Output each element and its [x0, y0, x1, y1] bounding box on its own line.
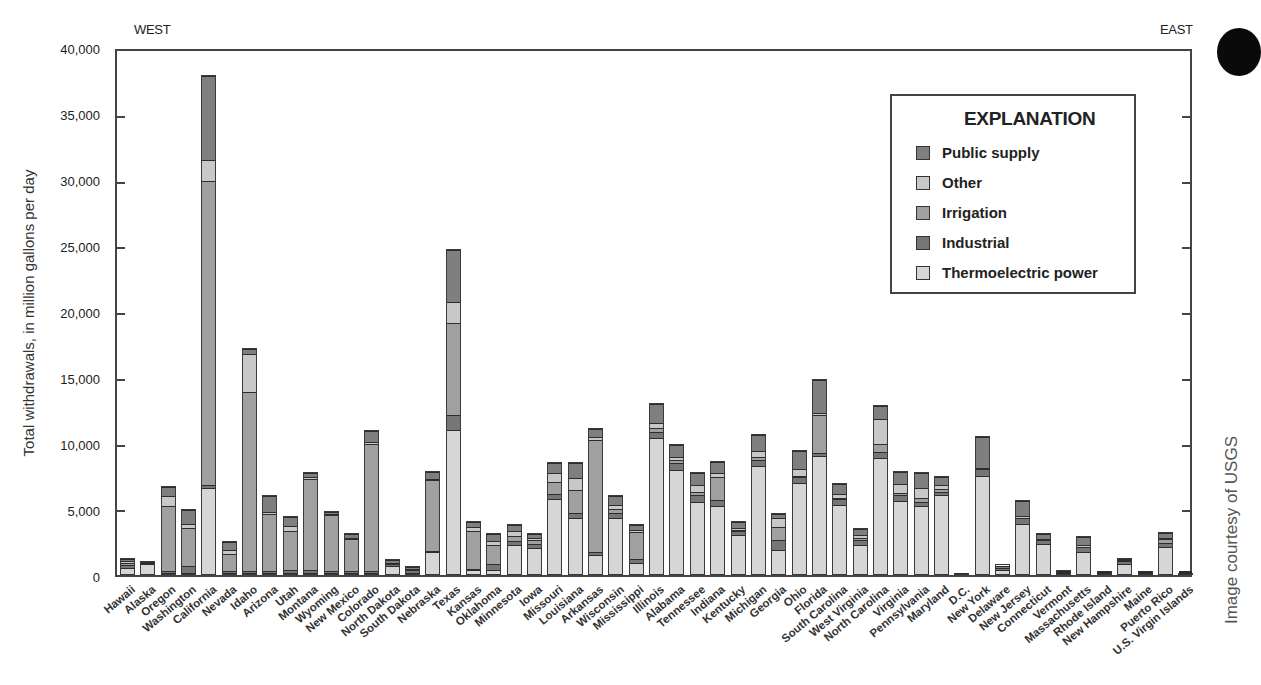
y-tick-mark [117, 313, 125, 315]
bar-segment-irrigation [202, 181, 215, 485]
bar-segment-public-supply [752, 435, 765, 451]
y-tick-label: 10,000 [60, 438, 100, 453]
bar-oregon [161, 486, 176, 575]
bar-segment-irrigation [243, 392, 256, 572]
bar-segment-thermoelectric-power [772, 550, 785, 574]
bar-segment-other [874, 419, 887, 444]
bar-segment-thermoelectric-power [487, 570, 500, 574]
bar-segment-public-supply [223, 542, 236, 551]
bar-segment-irrigation [304, 479, 317, 570]
bar-segment-public-supply [569, 463, 582, 479]
bar-segment-thermoelectric-power [1098, 573, 1111, 574]
bar-utah [283, 516, 298, 575]
bar-new-mexico [344, 533, 359, 575]
bar-segment-thermoelectric-power [467, 570, 480, 574]
bar-idaho [242, 348, 257, 575]
east-label: EAST [1160, 22, 1193, 37]
bar-segment-thermoelectric-power [670, 470, 683, 574]
bar-segment-public-supply [874, 406, 887, 419]
bar-segment-industrial [772, 540, 785, 550]
bar-segment-public-supply [487, 534, 500, 542]
bar-segment-irrigation [447, 323, 460, 414]
bar-segment-public-supply [894, 472, 907, 484]
bar-segment-thermoelectric-power [263, 573, 276, 574]
bar-south-carolina [832, 483, 847, 575]
bar-segment-thermoelectric-power [284, 573, 297, 574]
y-tick-label: 40,000 [60, 42, 100, 57]
bar-u-s-virgin-islands [1178, 573, 1193, 575]
bar-segment-public-supply [793, 451, 806, 469]
bar-segment-thermoelectric-power [223, 573, 236, 574]
bar-new-york [975, 436, 990, 575]
bar-nevada [222, 541, 237, 575]
bar-michigan [751, 434, 766, 575]
bar-segment-public-supply [976, 437, 989, 468]
bar-segment-thermoelectric-power [1057, 573, 1070, 574]
bar-arkansas [588, 428, 603, 575]
image-credit: Image courtesy of USGS [1222, 436, 1242, 624]
bar-mississippi [629, 524, 644, 575]
bar-alabama [669, 444, 684, 576]
bar-segment-thermoelectric-power [996, 570, 1009, 574]
legend-item-irrigation: Irrigation [916, 204, 1007, 221]
bar-segment-other [894, 484, 907, 493]
legend-item-other: Other [916, 174, 982, 191]
bar-north-carolina [873, 405, 888, 575]
bar-alaska [140, 561, 155, 575]
bar-segment-irrigation [813, 415, 826, 453]
legend-swatch [916, 236, 930, 250]
bar-segment-thermoelectric-power [325, 573, 338, 574]
bar-segment-thermoelectric-power [243, 573, 256, 574]
bar-segment-irrigation [772, 527, 785, 540]
y-tick-mark-right [1182, 445, 1190, 447]
bar-segment-thermoelectric-power [345, 573, 358, 574]
bar-maryland [934, 476, 949, 575]
bar-segment-public-supply [935, 477, 948, 485]
bar-wyoming [324, 511, 339, 575]
legend-item-thermoelectric-power: Thermoelectric power [916, 264, 1098, 281]
bar-segment-public-supply [915, 473, 928, 487]
bar-segment-thermoelectric-power [813, 456, 826, 574]
bar-segment-thermoelectric-power [426, 552, 439, 574]
legend: EXPLANATION Public supply Other Irrigati… [890, 94, 1136, 294]
bar-segment-public-supply [691, 473, 704, 485]
bar-segment-irrigation [630, 532, 643, 558]
bar-segment-thermoelectric-power [386, 566, 399, 574]
bar-segment-thermoelectric-power [752, 466, 765, 574]
bar-segment-irrigation [548, 482, 561, 494]
bar-louisiana [568, 462, 583, 575]
bar-missouri [547, 462, 562, 575]
bar-vermont [1056, 570, 1071, 575]
y-tick-mark-right [1182, 510, 1190, 512]
bar-segment-other [569, 478, 582, 490]
y-tick-label: 5,000 [67, 504, 100, 519]
bar-segment-thermoelectric-power [630, 563, 643, 574]
bar-hawaii [120, 558, 135, 575]
bar-tennessee [690, 472, 705, 575]
bar-segment-other [447, 302, 460, 323]
bar-segment-public-supply [182, 510, 195, 524]
bar-pennsylvania [914, 472, 929, 575]
bar-california [201, 75, 216, 575]
bar-segment-thermoelectric-power [793, 483, 806, 574]
bar-puerto-rico [1158, 532, 1173, 575]
bar-segment-industrial [447, 415, 460, 431]
bar-segment-thermoelectric-power [894, 501, 907, 574]
bar-segment-thermoelectric-power [1179, 573, 1192, 574]
bar-segment-thermoelectric-power [447, 430, 460, 574]
bar-segment-other [915, 488, 928, 498]
bar-segment-thermoelectric-power [833, 505, 846, 574]
bar-virginia [893, 471, 908, 575]
bar-massachusetts [1076, 536, 1091, 575]
bar-segment-public-supply [813, 380, 826, 413]
bar-illinois [649, 403, 664, 575]
bar-nebraska [425, 471, 440, 575]
bar-segment-other [243, 354, 256, 392]
bar-kentucky [731, 521, 746, 575]
bar-segment-irrigation [569, 490, 582, 513]
y-tick-label: 30,000 [60, 174, 100, 189]
bar-segment-irrigation [345, 539, 358, 571]
bar-segment-industrial [670, 463, 683, 471]
bar-segment-thermoelectric-power [935, 495, 948, 574]
bar-segment-thermoelectric-power [609, 518, 622, 574]
